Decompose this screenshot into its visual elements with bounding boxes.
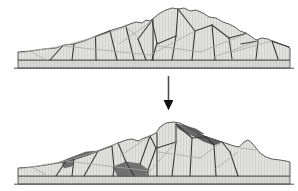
figure-root: Rock slope cross-section: fractured mass… <box>0 0 298 191</box>
panel-after <box>14 122 294 184</box>
panel-before <box>14 8 294 68</box>
basal-layer-before <box>18 60 290 68</box>
rock-slope-diagram <box>0 0 298 191</box>
basal-layer-after <box>18 176 290 184</box>
